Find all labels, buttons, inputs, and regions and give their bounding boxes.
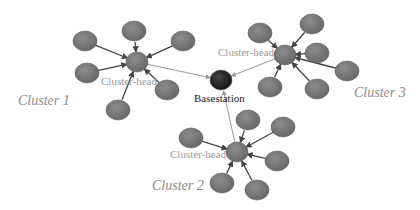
cluster1-member-node xyxy=(106,100,130,120)
cluster3-member-node xyxy=(248,23,272,43)
cluster2-member-node xyxy=(210,173,234,193)
cluster2-member-node xyxy=(179,128,203,148)
cluster-3-label: Cluster 3 xyxy=(354,85,406,101)
cluster2-member-node xyxy=(265,151,289,171)
cluster3-head-to-basestation-link xyxy=(231,59,275,76)
cluster3-member-node xyxy=(300,14,324,34)
cluster2-member-link xyxy=(227,161,233,173)
cluster1-member-link xyxy=(146,46,173,58)
cluster1-member-node xyxy=(155,80,179,100)
cluster3-member-link xyxy=(275,64,281,77)
cluster-3-head-label: Cluster-head xyxy=(218,46,274,58)
cluster2-member-link xyxy=(247,154,267,158)
cluster3-head-node xyxy=(274,45,296,65)
cluster2-member-link xyxy=(240,130,244,142)
cluster3-member-node xyxy=(305,43,329,63)
wsn-cluster-diagram: Cluster 1 Cluster 2 Cluster 3 Cluster-he… xyxy=(0,0,420,210)
basestation-node xyxy=(210,70,232,90)
cluster2-member-link xyxy=(246,132,274,147)
cluster1-member-node xyxy=(171,31,195,51)
cluster3-member-node xyxy=(305,79,329,99)
basestation-label: Basestation xyxy=(194,92,245,104)
cluster3-member-link xyxy=(292,32,305,47)
cluster3-member-node xyxy=(335,61,359,81)
cluster-1-head-label: Cluster-head xyxy=(101,75,157,87)
cluster2-head-node xyxy=(226,142,248,162)
cluster3-member-link xyxy=(292,62,310,81)
cluster1-member-link xyxy=(98,64,127,70)
cluster1-member-node xyxy=(122,21,146,41)
cluster3-member-link xyxy=(295,54,306,55)
cluster2-member-node xyxy=(245,180,269,200)
cluster1-member-node xyxy=(73,31,97,51)
cluster2-member-node xyxy=(236,110,260,130)
cluster3-member-node xyxy=(258,77,282,97)
cluster2-member-link xyxy=(242,161,252,180)
cluster-2-label: Cluster 2 xyxy=(152,178,204,194)
cluster-1-label: Cluster 1 xyxy=(18,93,70,109)
cluster1-member-link xyxy=(95,45,128,58)
cluster1-member-link xyxy=(135,42,136,52)
cluster2-member-node xyxy=(271,117,295,137)
cluster1-head-node xyxy=(126,52,148,72)
cluster1-member-node xyxy=(75,63,99,83)
cluster-2-head-label: Cluster-head xyxy=(170,148,226,160)
